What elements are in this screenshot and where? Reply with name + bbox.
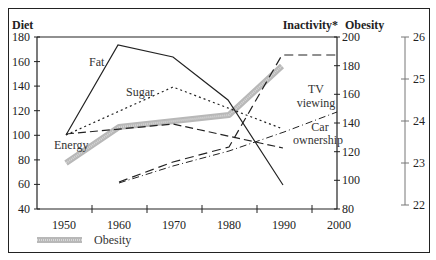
left-axis-labels: 180 160 140 120 100 80 60 40 bbox=[12, 30, 30, 216]
left-tick-100: 100 bbox=[12, 128, 30, 142]
series-obesity-line bbox=[66, 66, 282, 163]
annotation-fat: Fat bbox=[89, 55, 105, 69]
x-tick-1980: 1980 bbox=[217, 218, 241, 232]
annotation-sugar: Sugar bbox=[126, 85, 154, 99]
inactivity-tick-200: 200 bbox=[342, 30, 360, 44]
left-tick-120: 120 bbox=[12, 104, 30, 118]
obesity-axis bbox=[401, 37, 409, 205]
inactivity-tick-180: 180 bbox=[342, 59, 360, 73]
annotation-tv-2: viewing bbox=[297, 96, 336, 110]
inactivity-tick-120: 120 bbox=[342, 145, 360, 159]
obesity-tick-24: 24 bbox=[413, 114, 425, 128]
left-tick-160: 160 bbox=[12, 55, 30, 69]
x-axis-labels: 1950 1960 1970 1980 1990 2000 bbox=[52, 218, 351, 232]
inactivity-axis-title: Inactivity* bbox=[283, 18, 338, 32]
annotation-car-2: ownership bbox=[293, 133, 343, 147]
x-tick-1950: 1950 bbox=[52, 218, 76, 232]
inactivity-tick-80: 80 bbox=[342, 202, 354, 216]
inactivity-tick-140: 140 bbox=[342, 116, 360, 130]
left-tick-80: 80 bbox=[18, 153, 30, 167]
annotation-car-1: Car bbox=[311, 120, 328, 134]
x-tick-2000: 2000 bbox=[327, 218, 351, 232]
left-tick-140: 140 bbox=[12, 79, 30, 93]
obesity-tick-26: 26 bbox=[413, 30, 425, 44]
inactivity-tick-100: 100 bbox=[342, 173, 360, 187]
obesity-tick-22: 22 bbox=[413, 198, 425, 212]
series-tv-viewing-line bbox=[119, 55, 337, 182]
obesity-tick-23: 23 bbox=[413, 156, 425, 170]
inactivity-tick-160: 160 bbox=[342, 87, 360, 101]
legend-obesity-label: Obesity bbox=[94, 233, 131, 247]
left-tick-40: 40 bbox=[18, 202, 30, 216]
x-tick-1970: 1970 bbox=[162, 218, 186, 232]
plot-axes bbox=[37, 37, 337, 209]
chart-svg: Diet Inactivity* Obesity 180 160 140 120… bbox=[0, 0, 436, 260]
inactivity-axis-labels: 200 180 160 140 120 100 80 bbox=[342, 30, 360, 216]
annotation-tv-1: TV bbox=[308, 82, 324, 96]
obesity-tick-25: 25 bbox=[413, 72, 425, 86]
x-tick-1960: 1960 bbox=[107, 218, 131, 232]
left-tick-180: 180 bbox=[12, 30, 30, 44]
obesity-axis-labels: 26 25 24 23 22 bbox=[413, 30, 425, 212]
annotation-energy: Energy bbox=[54, 138, 88, 152]
legend: Obesity bbox=[37, 233, 131, 247]
x-tick-1990: 1990 bbox=[272, 218, 296, 232]
left-tick-60: 60 bbox=[18, 177, 30, 191]
